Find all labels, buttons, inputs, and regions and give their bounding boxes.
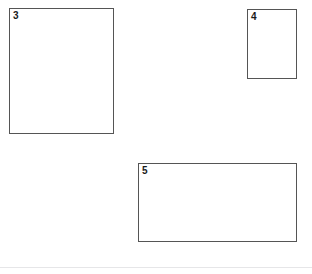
- region-label-4: 4: [251, 11, 257, 23]
- region-box-4[interactable]: 4: [247, 9, 297, 79]
- region-box-3[interactable]: 3: [9, 8, 114, 134]
- footer-divider: [0, 267, 312, 268]
- region-label-5: 5: [142, 165, 148, 177]
- region-label-3: 3: [13, 10, 19, 22]
- page-canvas: 3 4 5: [0, 0, 312, 274]
- region-box-5[interactable]: 5: [138, 163, 297, 242]
